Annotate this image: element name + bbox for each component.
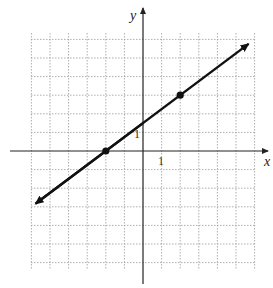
- y-tick-label: 1: [134, 127, 140, 142]
- x-axis-label: x: [264, 154, 270, 170]
- coordinate-plane: [0, 0, 273, 288]
- x-tick-label: 1: [158, 154, 164, 169]
- data-point: [177, 92, 184, 99]
- data-point: [102, 147, 109, 154]
- y-axis-label: y: [130, 8, 136, 24]
